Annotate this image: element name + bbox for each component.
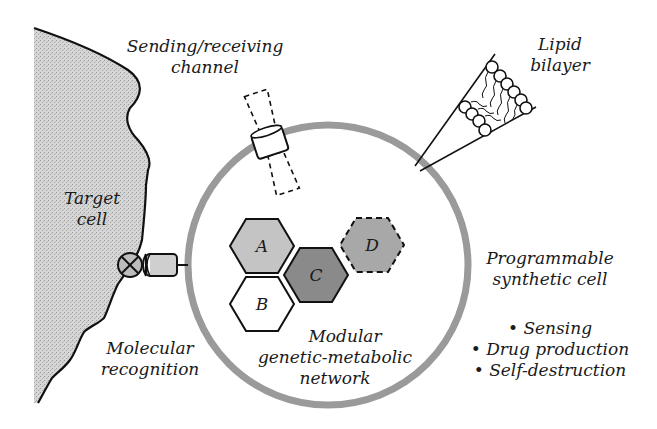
recognition-label-line2: recognition	[100, 359, 200, 380]
synthetic-cell-label: Programmable synthetic cell	[475, 248, 625, 290]
functions-list: • Sensing • Drug production • Self-destr…	[470, 318, 630, 381]
lipid-label-line2: bilayer	[520, 55, 600, 76]
channel-label: Sending/receiving channel	[115, 36, 295, 78]
channel-label-line2: channel	[115, 57, 295, 78]
receptor-icon	[118, 253, 188, 277]
network-label: Modular genetic-metabolic network	[255, 326, 415, 389]
lipid-label-line1: Lipid	[520, 34, 600, 55]
synthetic-cell-label-line2: synthetic cell	[475, 269, 625, 290]
recognition-label: Molecular recognition	[100, 338, 200, 380]
target-cell-label-line1: Target	[52, 188, 132, 209]
network-label-line2: genetic-metabolic	[255, 347, 415, 368]
network-label-line1: Modular	[255, 326, 415, 347]
recognition-label-line1: Molecular	[100, 338, 200, 359]
function-self-destruction: • Self-destruction	[470, 360, 630, 381]
function-sensing: • Sensing	[470, 318, 630, 339]
target-cell-label: Target cell	[52, 188, 132, 230]
target-cell-label-line2: cell	[52, 209, 132, 230]
synthetic-cell-label-line1: Programmable	[475, 248, 625, 269]
module-A-label: A	[247, 236, 277, 256]
function-drug-production: • Drug production	[470, 339, 630, 360]
lipid-bilayer-icon	[415, 54, 536, 171]
network-label-line3: network	[255, 368, 415, 389]
module-B-label: B	[247, 294, 277, 314]
module-D-label: D	[357, 235, 387, 255]
module-C-label: C	[301, 265, 331, 285]
lipid-label: Lipid bilayer	[520, 34, 600, 76]
channel-label-line1: Sending/receiving	[115, 36, 295, 57]
